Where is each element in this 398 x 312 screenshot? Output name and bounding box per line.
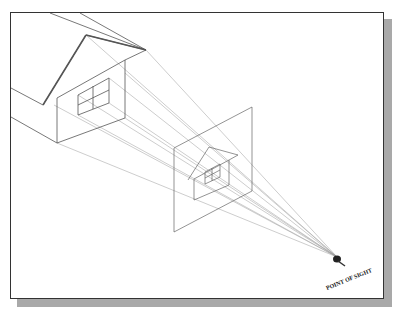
house-object [11,13,146,143]
point-of-sight-eye [333,256,345,267]
point-of-sight-label: POINT OF SIGHT [325,267,373,291]
projection-rays [54,35,337,257]
perspective-diagram: POINT OF SIGHT [0,0,398,312]
